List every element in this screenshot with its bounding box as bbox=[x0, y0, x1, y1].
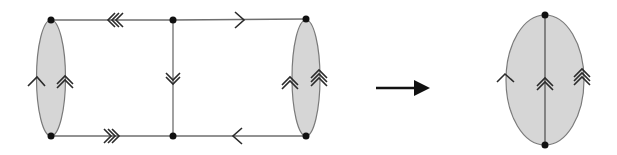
vertex-top-right bbox=[303, 16, 310, 23]
transform-arrow-icon bbox=[376, 80, 430, 96]
vertex-bottom-left bbox=[48, 133, 55, 140]
graph-contraction-diagram bbox=[0, 0, 617, 155]
vertex-top-left bbox=[48, 17, 55, 24]
vertex-bottom-right bbox=[303, 133, 310, 140]
vertex-bottom-middle bbox=[170, 133, 177, 140]
vertex-big-oval-top bbox=[542, 12, 549, 19]
left-oval-face bbox=[37, 20, 66, 136]
vertex-top-middle bbox=[170, 17, 177, 24]
left-graph bbox=[28, 12, 327, 144]
right-graph bbox=[497, 12, 590, 149]
top-right-edge bbox=[173, 19, 306, 20]
vertex-big-oval-bottom bbox=[542, 142, 549, 149]
